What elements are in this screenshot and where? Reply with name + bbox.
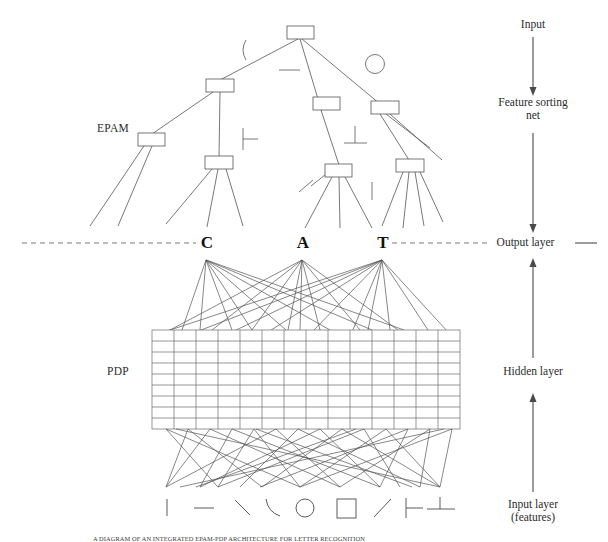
hidden-to-input-connections [166,429,452,487]
curve-feature-icon [266,499,280,516]
tree-node-l3-a [138,133,165,146]
hidden-layer-grid [152,330,460,429]
output-letter-a: A [293,233,313,253]
tee-feature-icon [406,498,423,518]
input-feature-glyphs [167,497,455,518]
stage-label-feature-sorting-net: Feature sorting net [483,96,583,122]
tree-node-l2-c [371,101,399,114]
perpendicular-feature-glyph [344,126,367,143]
circle-feature-glyph [366,55,385,74]
tree-node-l3-c [325,164,352,177]
circle-feature-icon [296,499,314,517]
perpendicular-feature-icon [427,497,455,509]
curve-feature-glyph [243,40,246,60]
tree-feature-glyphs [243,40,385,200]
tee-feature-glyph [243,128,258,150]
tree-node-root [287,26,314,39]
tree-node-l3-b [205,156,233,169]
diagram-canvas [0,0,608,542]
epam-module-label: EPAM [97,122,129,135]
forwardslash-feature-glyph [299,180,313,192]
backslash-line-feature-icon [235,500,250,515]
tree-node-l2-b [313,97,340,110]
stage-label-hidden-layer: Hidden layer [483,365,583,378]
output-to-hidden-connections [164,260,448,332]
tree-leaves [90,146,443,228]
tree-branches-level1 [220,39,380,104]
forwardslash-line-feature-icon [374,499,391,517]
tree-node-l3-d [396,159,424,172]
stage-label-input-layer: Input layer (features) [483,498,583,524]
tree-node-l2-a [206,79,234,92]
square-feature-icon [337,499,356,518]
stage-label-output-layer: Output layer [483,236,568,249]
stage-label-input: Input [483,18,583,31]
diagram-figure: EPAM PDP C A T Input Feature sorting net… [0,0,608,542]
output-letter-c: C [197,233,217,253]
figure-caption: A DIAGRAM OF AN INTEGRATED EPAM-PDP ARCH… [93,535,365,542]
pdp-module-label: PDP [107,365,129,378]
output-letter-t: T [373,233,393,253]
